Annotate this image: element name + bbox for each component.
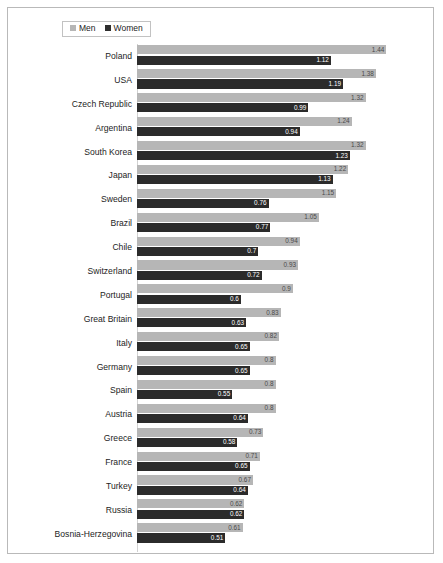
bar-women[interactable]: 0.63 <box>137 318 246 327</box>
bar-men[interactable]: 0.8 <box>137 404 276 413</box>
bar-women[interactable]: 0.72 <box>137 271 262 280</box>
chart-row: Sweden1.150.76 <box>8 187 433 211</box>
bar-group: 0.830.63 <box>137 307 433 331</box>
legend-label-men: Men <box>79 24 96 33</box>
legend-item-women[interactable]: Women <box>105 24 143 33</box>
bar-group: 0.80.65 <box>137 355 433 379</box>
bar-women[interactable]: 0.62 <box>137 510 244 519</box>
bar-value-label: 0.65 <box>235 344 249 350</box>
bar-men[interactable]: 1.24 <box>137 117 352 126</box>
bar-value-label: 1.32 <box>351 142 365 148</box>
chart-row: Spain0.80.55 <box>8 378 433 402</box>
bar-women[interactable]: 0.51 <box>137 533 225 542</box>
chart-container: Men Women Poland1.441.12USA1.381.19Czech… <box>7 7 434 554</box>
bar-value-label: 0.72 <box>247 272 261 278</box>
plot-area: Poland1.441.12USA1.381.19Czech Republic1… <box>8 44 433 552</box>
bar-men[interactable]: 0.8 <box>137 356 276 365</box>
bar-women[interactable]: 0.99 <box>137 103 308 112</box>
category-label-france: France <box>8 457 137 467</box>
category-label-argentina: Argentina <box>8 123 137 133</box>
bar-value-label: 1.05 <box>304 214 318 220</box>
bar-group: 1.441.12 <box>137 44 433 68</box>
chart-legend: Men Women <box>62 21 151 37</box>
bar-men[interactable]: 0.62 <box>137 499 244 508</box>
category-label-sweden: Sweden <box>8 194 137 204</box>
square-swatch-icon <box>70 25 76 31</box>
bar-value-label: 0.6 <box>230 296 241 302</box>
bar-value-label: 0.82 <box>265 333 279 339</box>
bar-value-label: 1.23 <box>335 153 349 159</box>
bar-men[interactable]: 0.61 <box>137 523 243 532</box>
bar-women[interactable]: 0.64 <box>137 414 248 423</box>
category-label-japan: Japan <box>8 170 137 180</box>
chart-row: Austria0.80.64 <box>8 402 433 426</box>
bar-women[interactable]: 0.76 <box>137 199 269 208</box>
bar-women[interactable]: 0.58 <box>137 438 237 447</box>
chart-row: Great Britain0.830.63 <box>8 307 433 331</box>
bar-group: 0.620.62 <box>137 498 433 522</box>
bar-group: 0.820.65 <box>137 331 433 355</box>
bar-men[interactable]: 0.94 <box>137 237 300 246</box>
bar-men[interactable]: 1.44 <box>137 45 386 54</box>
bar-value-label: 0.58 <box>223 439 237 445</box>
bar-women[interactable]: 1.12 <box>137 56 331 65</box>
bar-group: 1.150.76 <box>137 187 433 211</box>
bar-value-label: 0.71 <box>245 453 259 459</box>
bar-value-label: 0.64 <box>233 487 247 493</box>
bar-group: 0.930.72 <box>137 259 433 283</box>
bar-women[interactable]: 0.65 <box>137 366 250 375</box>
chart-row: Russia0.620.62 <box>8 498 433 522</box>
bar-women[interactable]: 0.55 <box>137 390 232 399</box>
category-label-chile: Chile <box>8 242 137 252</box>
chart-row: Turkey0.670.64 <box>8 474 433 498</box>
bar-group: 0.730.58 <box>137 426 433 450</box>
legend-item-men[interactable]: Men <box>70 24 96 33</box>
bar-men[interactable]: 0.82 <box>137 332 279 341</box>
category-label-italy: Italy <box>8 338 137 348</box>
bar-value-label: 1.12 <box>316 57 330 63</box>
bar-value-label: 0.64 <box>233 415 247 421</box>
bar-men[interactable]: 0.73 <box>137 428 263 437</box>
bar-women[interactable]: 1.19 <box>137 79 343 88</box>
bar-women[interactable]: 0.94 <box>137 127 300 136</box>
bar-value-label: 0.62 <box>230 511 244 517</box>
bar-group: 0.710.65 <box>137 450 433 474</box>
bar-value-label: 0.93 <box>284 262 298 268</box>
bar-value-label: 0.63 <box>232 320 246 326</box>
bar-value-label: 0.55 <box>218 391 232 397</box>
bar-men[interactable]: 0.71 <box>137 452 260 461</box>
category-label-great-britain: Great Britain <box>8 314 137 324</box>
category-label-spain: Spain <box>8 385 137 395</box>
bar-men[interactable]: 1.32 <box>137 93 366 102</box>
chart-row: Poland1.441.12 <box>8 44 433 68</box>
bar-men[interactable]: 1.32 <box>137 141 366 150</box>
bar-men[interactable]: 0.9 <box>137 284 293 293</box>
bar-women[interactable]: 0.65 <box>137 342 250 351</box>
bar-value-label: 0.51 <box>211 535 225 541</box>
bar-men[interactable]: 1.22 <box>137 165 348 174</box>
bar-men[interactable]: 1.05 <box>137 213 319 222</box>
bar-group: 1.321.23 <box>137 140 433 164</box>
category-label-usa: USA <box>8 75 137 85</box>
bar-men[interactable]: 0.93 <box>137 260 298 269</box>
chart-row: Argentina1.240.94 <box>8 116 433 140</box>
bar-value-label: 0.67 <box>239 477 253 483</box>
bar-women[interactable]: 0.6 <box>137 295 241 304</box>
bar-men[interactable]: 1.38 <box>137 69 376 78</box>
category-label-greece: Greece <box>8 433 137 443</box>
bar-men[interactable]: 1.15 <box>137 189 336 198</box>
category-label-turkey: Turkey <box>8 481 137 491</box>
bar-men[interactable]: 0.8 <box>137 380 276 389</box>
bar-women[interactable]: 0.77 <box>137 223 270 232</box>
bar-value-label: 0.73 <box>249 429 263 435</box>
bar-men[interactable]: 0.67 <box>137 475 253 484</box>
bar-group: 0.80.64 <box>137 402 433 426</box>
bar-women[interactable]: 1.13 <box>137 175 333 184</box>
bar-value-label: 1.22 <box>334 166 348 172</box>
bar-women[interactable]: 0.65 <box>137 462 250 471</box>
bar-women[interactable]: 0.64 <box>137 486 248 495</box>
bar-women[interactable]: 1.23 <box>137 151 350 160</box>
bar-women[interactable]: 0.7 <box>137 247 258 256</box>
bar-group: 1.221.13 <box>137 163 433 187</box>
bar-men[interactable]: 0.83 <box>137 308 281 317</box>
